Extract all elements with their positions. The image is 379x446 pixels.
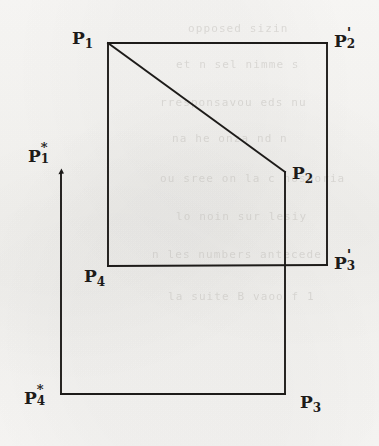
label-base: P <box>72 28 85 48</box>
label-base: P <box>24 388 37 408</box>
point-label-p2: P2 <box>292 165 313 185</box>
label-sup-sub-stack: *4 <box>37 387 46 404</box>
label-subscript: 4 <box>97 275 105 289</box>
point-label-p3prime: P'3 <box>334 252 356 272</box>
label-subscript: 3 <box>313 401 321 415</box>
point-label-p3: P3 <box>300 394 321 414</box>
point-label-p2prime: P'2 <box>334 30 356 50</box>
label-base: P <box>334 253 347 273</box>
markers-group <box>58 169 64 175</box>
p1star-tick-marker <box>58 169 64 175</box>
label-sup-sub-stack: '3 <box>347 252 356 269</box>
label-subscript: 3 <box>347 260 355 272</box>
label-subscript: 1 <box>41 153 49 165</box>
segment-bottom-edge-inner <box>108 265 327 266</box>
diagram-svg <box>0 0 379 446</box>
label-subscript: 4 <box>37 395 45 407</box>
point-label-p1star: P*1 <box>28 145 50 165</box>
label-subscript: 2 <box>347 38 355 50</box>
figure-root: opposed sizinet n sel nimme srresponsavo… <box>0 0 379 446</box>
label-subscript: 2 <box>305 172 313 186</box>
label-base: P <box>300 392 313 412</box>
label-base: P <box>292 163 305 183</box>
label-base: P <box>84 266 97 286</box>
label-base: P <box>334 31 347 51</box>
segment-diagonal <box>108 43 285 172</box>
label-sup-sub-stack: *1 <box>41 145 50 162</box>
point-label-p4: P4 <box>84 268 105 288</box>
label-sup-sub-stack: '2 <box>347 30 356 47</box>
label-base: P <box>28 146 41 166</box>
segments-group <box>61 43 327 394</box>
label-subscript: 1 <box>85 37 93 51</box>
point-label-p1: P1 <box>72 30 93 50</box>
point-label-p4star: P*4 <box>24 387 46 407</box>
